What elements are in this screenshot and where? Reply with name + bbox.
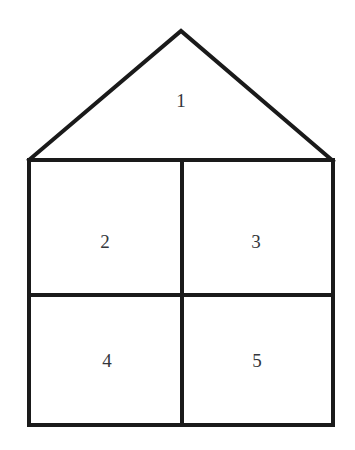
region-label-5: 5 [252,351,262,370]
house-diagram-canvas: 1 2 3 4 5 [0,0,355,450]
house-outline-svg [0,0,355,450]
region-label-1: 1 [176,91,186,110]
region-label-4: 4 [102,351,112,370]
region-label-2: 2 [100,232,110,251]
region-label-3: 3 [251,232,261,251]
